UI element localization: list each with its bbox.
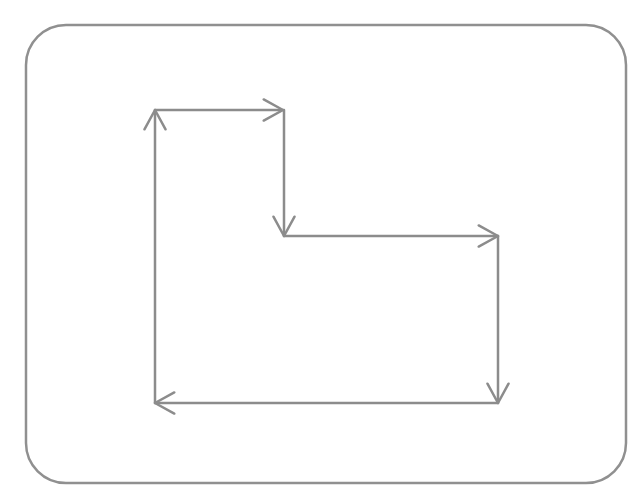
arrow-right-step (284, 225, 498, 246)
arrow-left-bottom (155, 392, 498, 413)
arrow-down-step (273, 110, 294, 236)
arrow-path-group (144, 99, 508, 413)
l-shape-arrow-diagram (0, 0, 644, 495)
arrow-up-left (144, 110, 165, 403)
arrow-right-top (155, 99, 283, 120)
diagram-frame (26, 25, 626, 483)
arrow-down-right (487, 236, 508, 403)
